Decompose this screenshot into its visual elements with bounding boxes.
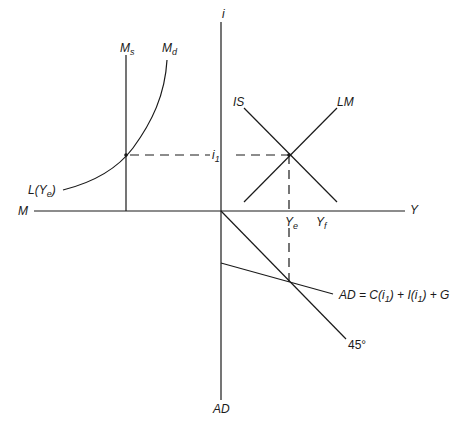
ad-axis-label: AD — [213, 403, 230, 415]
interest-axis-label: i — [222, 8, 225, 20]
money-equilibrium-point — [124, 153, 128, 157]
income-axis-label: Y — [410, 204, 418, 216]
money-supply-label: Ms — [120, 42, 135, 57]
money-demand-label: Md — [162, 42, 177, 57]
full-employment-income-label: Yf — [316, 216, 327, 231]
diagram-canvas — [0, 0, 457, 424]
islm-equilibrium-point — [287, 153, 291, 157]
equilibrium-income-label: Ye — [285, 216, 298, 231]
ad-equation-label: AD = C(i1) + I(i1) + G — [339, 289, 449, 304]
lm-label: LM — [337, 96, 354, 108]
interest-rate-label: i1 — [212, 149, 220, 164]
money-axis-label: M — [18, 205, 28, 217]
money-demand-curve — [63, 60, 167, 190]
is-label: IS — [233, 96, 244, 108]
liquidity-label: L(Ye) — [28, 184, 56, 199]
forty-five-label: 45° — [348, 339, 366, 351]
forty-five-line — [221, 211, 346, 339]
